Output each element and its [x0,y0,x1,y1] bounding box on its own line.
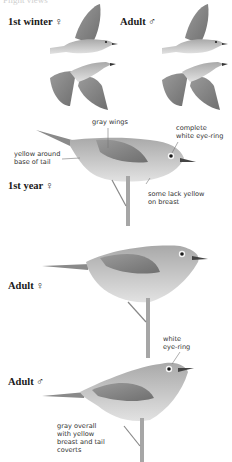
flight-bird-adult-male-downstroke [162,62,228,110]
perched-bird-1st-year-female [36,128,196,226]
label-1st-winter-female: 1st winter ♀ [8,16,63,27]
bird-illustrations [0,0,232,462]
annotation-breast: some lack yellow on breast [148,190,205,206]
annotation-white-eye-ring-adult-male: white eye-ring [163,335,190,351]
annotation-yellow-tail-base: yellow around base of tail [14,150,60,166]
annotation-gray-wings: gray wings [92,118,128,126]
label-adult-female: Adult ♀ [8,280,44,291]
label-adult-male: Adult ♂ [8,376,44,387]
label-adult-male-flight: Adult ♂ [120,16,156,27]
annotation-white-eye-ring: complete white eye-ring [176,124,223,140]
annotation-gray-overall: gray overall with yellow breast and tail… [57,422,105,454]
flight-bird-1st-winter-downstroke [50,62,116,110]
flight-bird-adult-male-upstroke [162,4,228,54]
flight-bird-1st-winter-upstroke [50,4,118,54]
label-1st-year-female: 1st year ♀ [8,180,54,191]
